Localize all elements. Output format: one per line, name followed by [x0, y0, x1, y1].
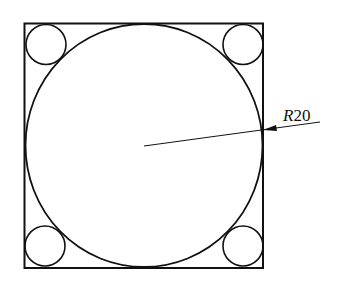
- drawing-canvas: R20: [0, 0, 339, 290]
- arrowhead-icon: [263, 125, 277, 131]
- dimension-label: R20: [282, 106, 310, 125]
- dimension-label-value: 20: [293, 106, 310, 125]
- dimension-leader-line: [144, 122, 320, 146]
- corner-circle-bottom-left: [25, 226, 65, 266]
- corner-circle-top-right: [223, 25, 263, 65]
- corner-circle-top-left: [26, 25, 66, 65]
- dimension-label-prefix: R: [282, 106, 294, 125]
- corner-circle-bottom-right: [223, 226, 263, 266]
